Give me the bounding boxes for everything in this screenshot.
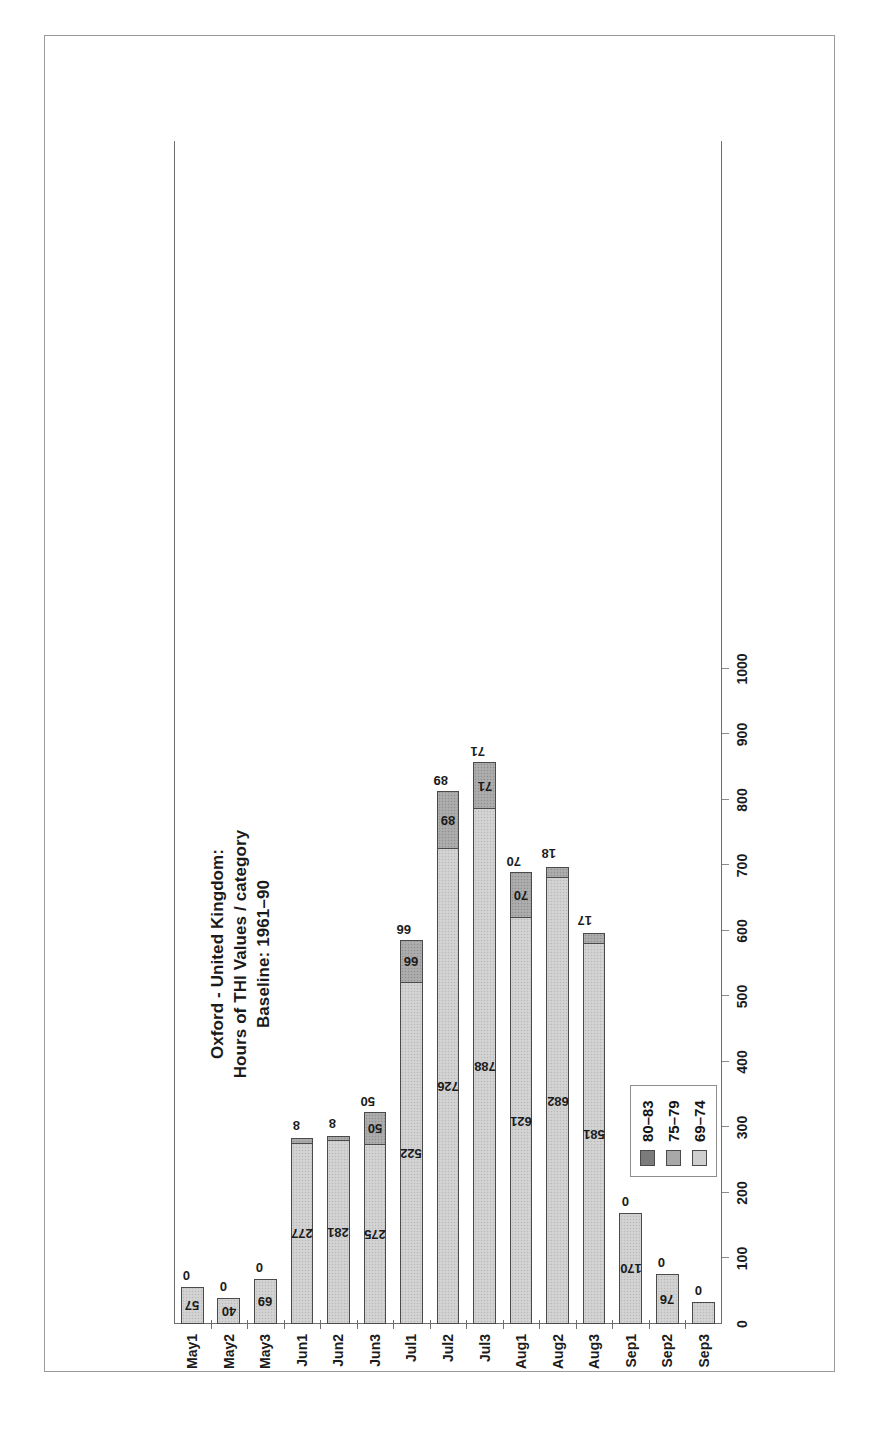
bar-outer-label: 89 bbox=[433, 772, 447, 787]
category-label-jul3: Jul3 bbox=[476, 1334, 492, 1380]
bar-outer-label: 8 bbox=[292, 1117, 299, 1132]
value-axis-tick bbox=[722, 1192, 729, 1193]
bar-value-label: 57 bbox=[185, 1297, 199, 1312]
category-label-jun1: Jun1 bbox=[293, 1334, 309, 1380]
category-axis-tick bbox=[539, 1320, 540, 1329]
bar-value-label: 682 bbox=[546, 1093, 568, 1108]
value-axis-tick bbox=[722, 1061, 729, 1062]
bar-may2[interactable]: 40 bbox=[217, 1297, 240, 1323]
bar-value-label: 621 bbox=[510, 1113, 532, 1128]
bar-aug3[interactable]: 581 bbox=[582, 933, 605, 1324]
value-axis-label: 1000 bbox=[734, 653, 750, 684]
bar-value-label: 76 bbox=[659, 1291, 673, 1306]
bar-segment-69-74 bbox=[692, 1302, 715, 1324]
bar-outer-label: 50 bbox=[360, 1093, 374, 1108]
value-axis-label: 300 bbox=[734, 1115, 750, 1138]
value-axis-tick bbox=[722, 1257, 729, 1258]
bar-segment-69-74: 281 bbox=[327, 1139, 350, 1323]
bar-jun3[interactable]: 27550 bbox=[363, 1112, 386, 1324]
bar-value-label: 170 bbox=[619, 1260, 641, 1275]
bar-jul3[interactable]: 78871 bbox=[473, 762, 496, 1324]
bar-value-label: 522 bbox=[400, 1145, 422, 1160]
bar-outer-label: 66 bbox=[396, 921, 410, 936]
category-label-sep1: Sep1 bbox=[622, 1334, 638, 1380]
bar-segment-75-79 bbox=[582, 933, 605, 944]
bar-value-label: 70 bbox=[513, 887, 527, 902]
value-axis-label: 600 bbox=[734, 919, 750, 942]
category-axis-tick bbox=[320, 1320, 321, 1329]
bar-sep1[interactable]: 170 bbox=[619, 1212, 642, 1323]
bar-segment-75-79: 70 bbox=[509, 872, 532, 918]
bar-outer-label: 18 bbox=[541, 846, 555, 861]
bar-aug1[interactable]: 62170 bbox=[509, 872, 532, 1324]
figure-outer-frame: Oxford - United Kingdom: Hours of THI Va… bbox=[44, 35, 835, 1372]
category-axis-tick bbox=[393, 1320, 394, 1329]
chart-inner: Oxford - United Kingdom: Hours of THI Va… bbox=[120, 84, 760, 1324]
bar-segment-69-74: 726 bbox=[436, 848, 459, 1324]
bar-outer-label: 0 bbox=[657, 1254, 664, 1269]
bar-segment-69-74: 69 bbox=[254, 1278, 277, 1323]
bar-value-label: 275 bbox=[364, 1226, 386, 1241]
bar-jul2[interactable]: 72689 bbox=[436, 791, 459, 1324]
category-axis-tick bbox=[247, 1320, 248, 1329]
bar-outer-label: 0 bbox=[694, 1282, 701, 1297]
value-axis-label: 400 bbox=[734, 1050, 750, 1073]
bar-value-label: 69 bbox=[258, 1293, 272, 1308]
bar-value-label: 788 bbox=[473, 1058, 495, 1073]
bar-outer-label: 70 bbox=[506, 853, 520, 868]
bar-segment-69-74: 170 bbox=[619, 1212, 642, 1323]
value-axis-label: 900 bbox=[734, 722, 750, 745]
category-label-jul1: Jul1 bbox=[403, 1334, 419, 1380]
bar-segment-75-79: 71 bbox=[473, 762, 496, 809]
value-axis-tick bbox=[722, 668, 729, 669]
category-axis-tick bbox=[685, 1320, 686, 1329]
value-axis-tick bbox=[722, 995, 729, 996]
value-axis-tick bbox=[722, 1126, 729, 1127]
bar-value-label: 40 bbox=[221, 1303, 235, 1318]
bar-segment-69-74: 57 bbox=[180, 1286, 203, 1323]
bar-outer-label: 0 bbox=[256, 1259, 263, 1274]
bar-segment-69-74: 522 bbox=[400, 982, 423, 1324]
bar-segment-75-79 bbox=[290, 1138, 313, 1143]
category-label-jun2: Jun2 bbox=[330, 1334, 346, 1380]
value-axis-label: 700 bbox=[734, 853, 750, 876]
bar-value-label: 281 bbox=[327, 1224, 349, 1239]
value-axis-tick bbox=[722, 733, 729, 734]
bar-segment-75-79: 89 bbox=[436, 791, 459, 849]
bar-jul1[interactable]: 52266 bbox=[400, 939, 423, 1323]
bar-value-label: 71 bbox=[477, 778, 491, 793]
bar-segment-69-74: 581 bbox=[582, 943, 605, 1324]
bar-outer-label: 8 bbox=[329, 1115, 336, 1130]
bar-value-label: 277 bbox=[290, 1225, 312, 1240]
value-axis-tick bbox=[722, 799, 729, 800]
bar-jun1[interactable]: 277 bbox=[290, 1138, 313, 1324]
value-axis-label: 100 bbox=[734, 1246, 750, 1269]
value-axis-tick bbox=[722, 930, 729, 931]
bar-outer-label: 17 bbox=[577, 912, 591, 927]
rotated-chart-canvas: Oxford - United Kingdom: Hours of THI Va… bbox=[120, 84, 760, 1324]
value-axis-tick bbox=[722, 864, 729, 865]
bar-sep3[interactable] bbox=[692, 1302, 715, 1324]
value-axis-label: 800 bbox=[734, 788, 750, 811]
bar-segment-69-74: 788 bbox=[473, 807, 496, 1323]
bar-segment-69-74: 40 bbox=[217, 1297, 240, 1323]
bar-may3[interactable]: 69 bbox=[254, 1278, 277, 1323]
category-axis-tick bbox=[575, 1320, 576, 1329]
bar-sep2[interactable]: 76 bbox=[655, 1274, 678, 1324]
bar-outer-label: 71 bbox=[470, 743, 484, 758]
category-axis-tick bbox=[429, 1320, 430, 1329]
category-label-may2: May2 bbox=[220, 1334, 236, 1380]
category-label-aug2: Aug2 bbox=[549, 1334, 565, 1380]
category-label-aug1: Aug1 bbox=[513, 1334, 529, 1380]
bar-value-label: 89 bbox=[440, 812, 454, 827]
bar-outer-label: 0 bbox=[621, 1193, 628, 1208]
bar-outer-label: 0 bbox=[183, 1267, 190, 1282]
bar-aug2[interactable]: 682 bbox=[546, 866, 569, 1323]
bar-segment-69-74: 277 bbox=[290, 1142, 313, 1323]
bar-segment-75-79: 66 bbox=[400, 939, 423, 982]
bar-jun2[interactable]: 281 bbox=[327, 1135, 350, 1323]
category-axis-tick bbox=[466, 1320, 467, 1329]
bar-may1[interactable]: 57 bbox=[180, 1286, 203, 1323]
category-label-may3: May3 bbox=[257, 1334, 273, 1380]
bar-value-label: 66 bbox=[404, 953, 418, 968]
